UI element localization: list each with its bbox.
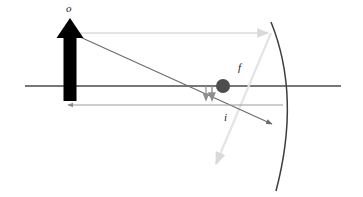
focal-point-label: f xyxy=(238,62,241,73)
object-arrow xyxy=(57,18,84,101)
image-label: i xyxy=(224,112,227,123)
ray-diagram-canvas xyxy=(0,0,363,197)
chief-ray xyxy=(80,37,272,124)
reflected-ray xyxy=(216,33,271,164)
object-label: o xyxy=(66,3,72,14)
optics-ray-diagram: o f i xyxy=(0,0,363,197)
convex-mirror-arc xyxy=(271,22,287,191)
focal-point-dot xyxy=(216,79,230,93)
